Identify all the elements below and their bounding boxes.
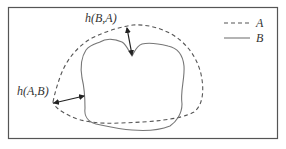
legend-b-label: B [256,31,264,45]
curve-b-solid [81,39,184,130]
legend-a-label: A [255,16,264,30]
legend: A B [224,16,264,45]
label-h-ab: h(A,B) [17,84,49,98]
frame-border [9,8,278,139]
label-h-ba: h(B,A) [85,11,117,25]
arrow-h-ab [54,96,84,103]
curve-a-dashed [53,25,203,123]
hausdorff-diagram: h(B,A) h(A,B) A B [0,0,286,149]
